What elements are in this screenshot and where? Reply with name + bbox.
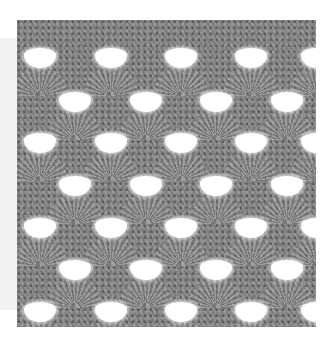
crochet-swatch-photo xyxy=(17,20,316,327)
